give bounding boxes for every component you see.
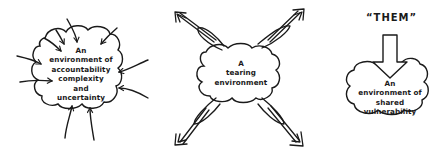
label-shared-vulnerability: An environment of shared vulnerability <box>352 79 428 117</box>
label-tearing: A tearing environment <box>206 59 276 87</box>
diagram-canvas: An environment of accountability complex… <box>0 0 441 149</box>
label-accountability: An environment of accountability complex… <box>46 46 116 102</box>
them-header: “THEM” <box>366 12 417 23</box>
down-arrow <box>373 35 407 78</box>
